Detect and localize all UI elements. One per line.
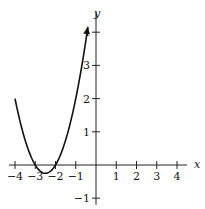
- y-tick-label: 3: [83, 59, 90, 72]
- x-tick-label: 1: [113, 170, 120, 183]
- y-tick-label: −1: [74, 192, 90, 205]
- y-tick-label: 1: [83, 126, 90, 139]
- chart: −4−3−2−11234−11234xy: [0, 0, 205, 209]
- curve-line: [15, 27, 88, 173]
- x-tick-label: −4: [7, 170, 23, 183]
- x-tick-label: 2: [133, 170, 140, 183]
- y-axis-label: y: [93, 7, 101, 20]
- x-tick-label: −1: [68, 170, 84, 183]
- x-axis-label: x: [194, 158, 201, 171]
- plot-area: −4−3−2−11234−11234xy: [0, 0, 205, 209]
- x-tick-label: 4: [174, 170, 181, 183]
- x-tick-label: 3: [153, 170, 160, 183]
- y-tick-label: 2: [83, 93, 90, 106]
